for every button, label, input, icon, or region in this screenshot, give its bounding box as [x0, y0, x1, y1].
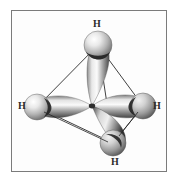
hydrogen-sphere-top	[84, 31, 112, 60]
atom-label-hydrogen-left: H	[18, 101, 26, 111]
hydrogen-sphere-bottom	[100, 130, 126, 156]
molecule-diagram	[0, 0, 179, 184]
carbon-center	[89, 104, 95, 109]
atom-label-hydrogen-top: H	[93, 19, 101, 29]
atom-label-hydrogen-right: H	[153, 101, 161, 111]
atom-label-hydrogen-bottom: H	[111, 157, 119, 167]
figure-root: H H H H	[0, 0, 179, 184]
